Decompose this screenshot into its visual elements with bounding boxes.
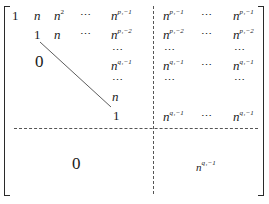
entry-r2c7: ⋯ — [201, 29, 213, 40]
entry-r4c8: nq₁−1 — [233, 59, 254, 72]
entry-r2c3: n — [54, 28, 61, 41]
entry-r1c6: np₁−1 — [163, 9, 184, 22]
entry-r1c2: n — [34, 9, 41, 22]
entry-r7c5: 1 — [113, 109, 120, 122]
entry-r1c1: 1 — [12, 9, 19, 22]
lower-triangle-zero: 0 — [35, 53, 44, 70]
entry-r1c4: ⋯ — [80, 10, 92, 21]
entry-r3c8: ⋯ — [234, 45, 246, 56]
entry-r4c7: ⋯ — [201, 60, 213, 71]
entry-r5c5: ⋯ — [112, 75, 124, 86]
entry-r1c8: np₁−1 — [233, 9, 254, 22]
bottom-right-block: nq₁−1 — [196, 160, 216, 173]
entry-r2c8: np₁−2 — [233, 28, 254, 41]
entry-r7c8: nq₁−1 — [233, 110, 254, 123]
entry-r4c5: nq₁−1 — [111, 59, 132, 72]
entry-r4c6: nq₁−1 — [163, 59, 184, 72]
entry-r5c6: ⋯ — [164, 75, 176, 86]
bottom-left-zero-block: 0 — [72, 155, 81, 172]
entry-r2c5: np₁−2 — [111, 28, 132, 41]
entry-r2c6: np₁−2 — [163, 28, 184, 41]
entry-r7c6: nq₁−1 — [163, 110, 184, 123]
entry-r2c4: ⋯ — [80, 29, 92, 40]
entry-r3c5: ⋯ — [112, 45, 124, 56]
entry-r7c7: ⋯ — [201, 111, 213, 122]
entry-r1c5: np₁−1 — [111, 9, 132, 22]
entry-r6c5: n — [112, 90, 119, 103]
entry-r3c6: ⋯ — [164, 45, 176, 56]
entry-r1c3: n2 — [54, 9, 64, 22]
entry-r1c7: ⋯ — [201, 10, 213, 21]
entry-r2c2: 1 — [34, 28, 41, 41]
entry-r5c8: ⋯ — [234, 75, 246, 86]
